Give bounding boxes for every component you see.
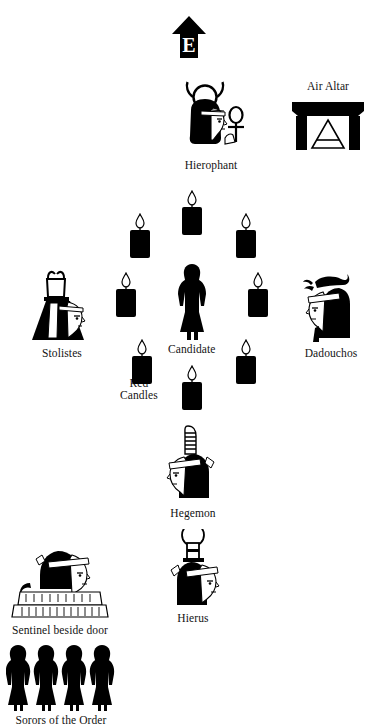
candle-ring: [0, 0, 378, 727]
candle-top-center: [178, 190, 206, 236]
red-candle-icon: [126, 213, 154, 259]
candle-lower-left: [128, 339, 156, 385]
candle-lower-right: [232, 339, 260, 385]
red-candle-icon: [232, 213, 260, 259]
candle-mid-left: [112, 272, 140, 318]
red-candle-icon: [244, 272, 272, 318]
red-candle-icon: [178, 365, 206, 411]
red-candle-icon: [128, 339, 156, 385]
red-candle-icon: [232, 339, 260, 385]
candle-upper-right: [232, 213, 260, 259]
red-candle-icon: [178, 190, 206, 236]
red-candle-icon: [112, 272, 140, 318]
candle-bottom-center: [178, 365, 206, 411]
candle-mid-right: [244, 272, 272, 318]
candle-upper-left: [126, 213, 154, 259]
